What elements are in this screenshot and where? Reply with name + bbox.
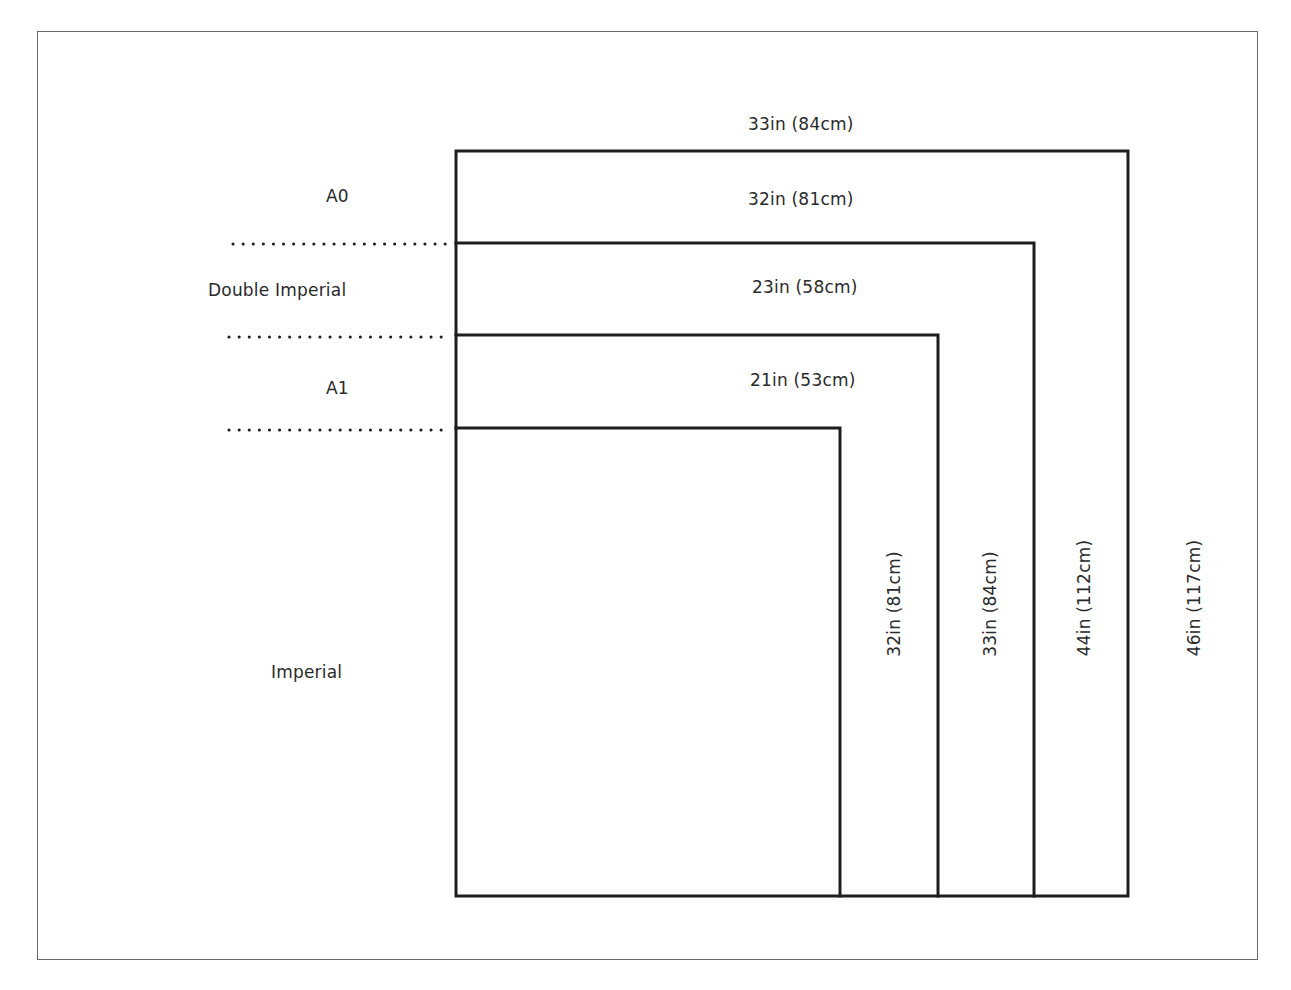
width-label-a1: 23in (58cm) xyxy=(752,277,858,297)
width-label-double-imperial: 32in (81cm) xyxy=(748,189,854,209)
imperial-outline xyxy=(456,428,840,896)
height-label-imperial: 32in (81cm) xyxy=(884,551,904,657)
width-label-a0: 33in (84cm) xyxy=(748,114,854,134)
label-a0: A0 xyxy=(326,186,349,206)
paper-size-outlines xyxy=(0,0,1291,990)
height-label-double-imperial: 44in (112cm) xyxy=(1074,540,1094,657)
label-a1: A1 xyxy=(326,378,349,398)
label-double-imperial: Double Imperial xyxy=(208,280,346,300)
height-label-a1: 33in (84cm) xyxy=(980,551,1000,657)
width-label-imperial: 21in (53cm) xyxy=(750,370,856,390)
height-label-a0: 46in (117cm) xyxy=(1184,540,1204,657)
a1-outline xyxy=(456,335,938,896)
label-imperial: Imperial xyxy=(271,662,342,682)
double-imperial-outline xyxy=(456,243,1034,896)
a0-outline xyxy=(456,151,1128,896)
